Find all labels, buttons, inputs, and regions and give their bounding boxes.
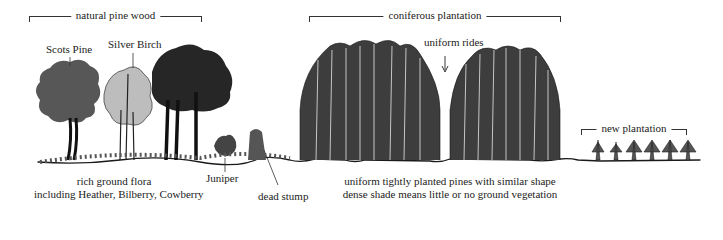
new-plantation-trees (592, 140, 696, 160)
silver-birch-label: Silver Birch (108, 38, 161, 51)
plantation-caption-line1: uniform tightly planted pines with simil… (330, 175, 570, 188)
scots-pine-label: Scots Pine (46, 43, 92, 56)
conifer-block-left (300, 40, 440, 160)
uniform-rides-label: uniform rides (424, 36, 484, 49)
ground-flora-caption-line1: rich ground flora (34, 175, 194, 188)
plantation-caption: uniform tightly planted pines with simil… (330, 175, 570, 201)
ground-flora-caption: rich ground flora including Heather, Bil… (34, 175, 194, 201)
juniper-label: Juniper (206, 172, 238, 185)
silver-birch-tree (104, 67, 153, 160)
dead-stump-label: dead stump (258, 190, 308, 203)
ground-flora-caption-line2: including Heather, Bilberry, Cowberry (34, 188, 194, 201)
conifer-block-right (450, 46, 560, 160)
scots-pine-tree (36, 60, 100, 160)
plantation-caption-line2: dense shade means little or no ground ve… (330, 188, 570, 201)
